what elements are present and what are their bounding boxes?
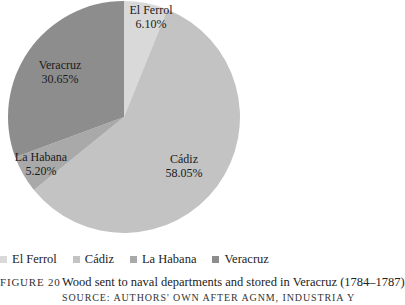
legend-item-la-habana: La Habana — [130, 252, 196, 267]
legend-label: Veracruz — [224, 252, 268, 267]
legend-item-cadiz: Cádiz — [73, 252, 114, 267]
legend-swatch — [130, 256, 137, 263]
slice-label-el-ferrol: El Ferrol 6.10% — [130, 3, 173, 31]
legend-item-el-ferrol: El Ferrol — [0, 252, 57, 267]
slice-value: 5.20% — [15, 164, 67, 178]
legend-label: El Ferrol — [12, 252, 57, 267]
chart-legend: El Ferrol Cádiz La Habana Veracruz — [0, 252, 285, 267]
figure-source: Source: Authors' own after AGNM, Industr… — [62, 292, 355, 303]
slice-label-cadiz: Cádiz 58.05% — [166, 152, 203, 180]
slice-name: Veracruz — [39, 58, 82, 72]
legend-swatch — [0, 256, 7, 263]
legend-swatch — [212, 256, 219, 263]
slice-name: Cádiz — [166, 152, 203, 166]
legend-label: La Habana — [142, 252, 196, 267]
figure-title: Wood sent to naval departments and store… — [62, 275, 405, 290]
legend-item-veracruz: Veracruz — [212, 252, 268, 267]
slice-name: El Ferrol — [130, 3, 173, 17]
pie-chart — [0, 0, 362, 250]
slice-label-la-habana: La Habana 5.20% — [15, 150, 67, 178]
slice-name: La Habana — [15, 150, 67, 164]
legend-swatch — [73, 256, 80, 263]
slice-value: 58.05% — [166, 166, 203, 180]
slice-value: 6.10% — [130, 17, 173, 31]
slice-value: 30.65% — [39, 72, 82, 86]
legend-label: Cádiz — [85, 252, 114, 267]
figure-label: Figure 20 — [0, 276, 61, 288]
slice-label-veracruz: Veracruz 30.65% — [39, 58, 82, 86]
